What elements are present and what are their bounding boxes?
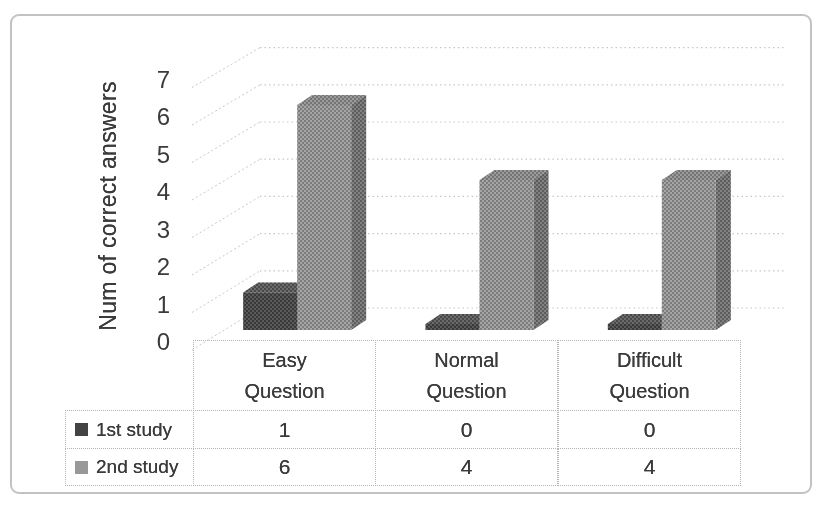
table-value-2nd-study-easy-question: 6 [193,448,376,486]
grid-diagonal [192,85,260,125]
category-label-difficult-question: Difficult Question [558,340,741,411]
table-value-1st-study-difficult-question: 0 [558,410,741,449]
legend-key-2nd-study [75,461,88,474]
legend-label: 2nd study [96,456,178,478]
bar-front-face-texture [662,180,716,330]
y-tick-label: 4 [157,178,170,205]
y-tick-label: 3 [157,216,170,243]
table-value-1st-study-normal-question: 0 [375,410,558,449]
table-value-1st-study-easy-question: 1 [193,410,376,449]
y-tick-label: 6 [157,103,170,130]
bar-front-face-texture [297,105,351,330]
category-label-normal-question: Normal Question [375,340,558,411]
chart-figure: Num of correct answers 01234567 Easy Que… [0,0,833,507]
gridline-6: 6 [157,85,786,130]
y-tick-label: 7 [157,66,170,93]
grid-diagonal [192,48,260,88]
legend-item-2nd-study: 2nd study [65,448,194,486]
y-tick-label: 2 [157,253,170,280]
bar-2nd-study-difficult-question [662,170,731,330]
legend-item-1st-study: 1st study [65,410,194,449]
bar-side-face-texture [716,170,731,330]
grid-diagonal [192,234,260,275]
legend-key-1st-study [75,423,88,436]
category-label-easy-question: Easy Question [193,340,376,411]
grid-diagonal [192,122,260,163]
bar-front-face-texture [243,293,297,331]
scanned-chart-page: Num of correct answers 01234567 Easy Que… [0,0,833,507]
bar-front-face-texture [425,324,479,330]
bar-front-face-texture [479,180,533,330]
bar-front-face-texture [608,324,662,330]
table-value-2nd-study-normal-question: 4 [375,448,558,486]
gridline-7: 7 [157,48,786,93]
y-tick-label: 5 [157,141,170,168]
bar-2nd-study-normal-question [479,170,548,330]
bar-side-face-texture [351,95,366,330]
gridline-5: 5 [157,122,786,168]
grid-diagonal [192,159,260,200]
grid-diagonal [192,196,260,237]
table-value-2nd-study-difficult-question: 4 [558,448,741,486]
legend-label: 1st study [96,419,172,441]
y-tick-label: 1 [157,291,170,318]
bar-2nd-study-easy-question [297,95,366,330]
y-tick-label: 0 [157,328,170,355]
bar-side-face-texture [533,170,548,330]
